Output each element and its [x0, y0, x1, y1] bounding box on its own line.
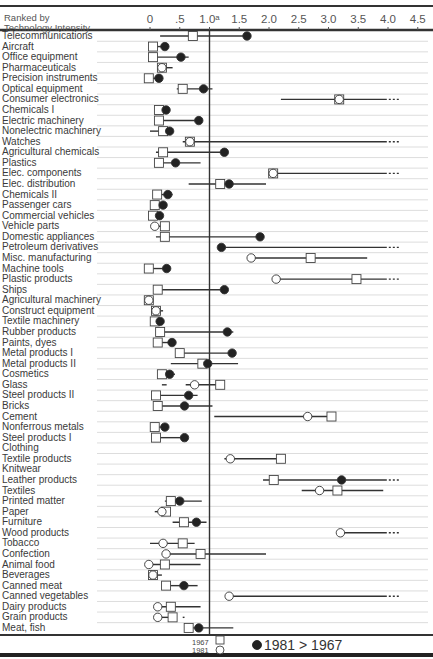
marker-1981-open-circle [190, 381, 198, 389]
marker-1981-open-circle [145, 560, 153, 568]
marker-1967-square [352, 275, 361, 284]
marker-1967-square [153, 190, 162, 199]
marker-1967-square [150, 423, 159, 432]
marker-1967-square [153, 285, 162, 294]
marker-1981-open-circle [247, 254, 255, 262]
marker-1967-square [327, 412, 336, 421]
marker-1967-square [151, 391, 160, 400]
marker-1967-square [154, 158, 163, 167]
marker-1967-square [144, 74, 153, 83]
legend-circle-label: 1981 [192, 647, 209, 655]
x-tick-label: 4.5 [410, 13, 426, 25]
marker-1981-open-circle [154, 603, 162, 611]
marker-1981-open-circle [186, 138, 194, 146]
marker-1967-square [269, 475, 278, 484]
marker-1981-filled-circle [192, 518, 200, 526]
marker-1981-filled-circle [177, 53, 185, 61]
row-label: Consumer electronics [2, 93, 99, 104]
row-label: Bricks [2, 400, 29, 411]
row-label: Glass [2, 379, 28, 390]
marker-1981-filled-circle [184, 391, 192, 399]
row-label: Precision instruments [2, 72, 98, 83]
row-label: Steel products II [2, 389, 74, 400]
row-label: Tobacco [2, 537, 39, 548]
marker-1967-square [306, 253, 315, 262]
legend-filled-label: 1981 > 1967 [264, 637, 342, 653]
row-label: Telecommunications [2, 30, 93, 41]
marker-1981-open-circle [158, 64, 166, 72]
marker-1981-open-circle [272, 275, 280, 283]
marker-1967-square [153, 338, 162, 347]
row-label: Animal food [2, 559, 55, 570]
marker-1967-square [148, 53, 157, 62]
marker-1967-square [159, 148, 168, 157]
marker-1967-square [216, 179, 225, 188]
row-label: Beverages [2, 569, 50, 580]
marker-1981-filled-circle [195, 116, 203, 124]
marker-1967-square [196, 549, 205, 558]
marker-1967-square [154, 116, 163, 125]
marker-1981-filled-circle [204, 359, 212, 367]
marker-1967-square [178, 84, 187, 93]
marker-1981-open-circle [162, 550, 170, 558]
row-label: Confection [2, 548, 50, 559]
row-label: Vehicle parts [2, 220, 59, 231]
row-label: Canned vegetables [2, 590, 88, 601]
row-label: Metal products I [2, 347, 73, 358]
row-label: Leather products [2, 474, 77, 485]
row-label: Chemicals I [2, 104, 54, 115]
row-label: Plastic products [2, 273, 73, 284]
x-tick-label: 3.0 [321, 13, 337, 25]
x-tick-label: 4.0 [380, 13, 396, 25]
technology-intensity-chart: Ranked by Technology Intensity 0.51.0ᵃ1.… [0, 0, 433, 659]
marker-1981-filled-circle [217, 243, 225, 251]
marker-1981-filled-circle [225, 180, 233, 188]
marker-1967-square [160, 232, 169, 241]
row-label: Paper [2, 506, 29, 517]
x-tick-label: 0 [147, 13, 153, 25]
marker-1981-open-circle [226, 455, 234, 463]
marker-1981-filled-circle [180, 581, 188, 589]
marker-1981-filled-circle [165, 370, 173, 378]
row-label: Petroleum derivatives [2, 241, 98, 252]
marker-1981-open-circle [336, 529, 344, 537]
marker-1981-filled-circle [180, 433, 188, 441]
row-label: Textiles [2, 485, 35, 496]
row-label: Textile machinery [2, 315, 79, 326]
legend-year-labels: 1967 1981 [192, 639, 209, 655]
marker-1981-filled-circle [243, 32, 251, 40]
row-label: Wood products [2, 527, 69, 538]
marker-1981-filled-circle [176, 497, 184, 505]
marker-1981-open-circle [145, 296, 153, 304]
row-label: Knitwear [2, 463, 41, 474]
marker-1981-open-circle [149, 571, 157, 579]
x-tick-label: .5 [175, 13, 185, 25]
marker-1981-filled-circle [162, 106, 170, 114]
marker-1967-square [216, 380, 225, 389]
marker-1981-filled-circle [195, 624, 203, 632]
row-label: Meat, fish [2, 622, 45, 633]
marker-1981-filled-circle [223, 328, 231, 336]
row-label: Misc. manufacturing [2, 252, 91, 263]
row-label: Grain products [2, 611, 68, 622]
marker-1967-square [160, 222, 169, 231]
row-label: Elec. components [2, 167, 82, 178]
marker-1981-filled-circle [180, 402, 188, 410]
marker-1967-square [148, 42, 157, 51]
row-label: Watches [2, 136, 41, 147]
marker-1981-open-circle [335, 95, 343, 103]
row-label: Ships [2, 284, 27, 295]
marker-1967-square [276, 454, 285, 463]
marker-1981-open-circle [154, 613, 162, 621]
marker-1981-filled-circle [161, 42, 169, 50]
marker-1981-filled-circle [165, 127, 173, 135]
x-tick-label: 1.0ᵃ [199, 13, 219, 25]
marker-1981-open-circle [225, 592, 233, 600]
row-label: Aircraft [2, 41, 34, 52]
marker-1981-filled-circle [220, 285, 228, 293]
row-label: Clothing [2, 442, 39, 453]
marker-1981-filled-circle [156, 317, 164, 325]
x-tick-label: 1.5 [231, 13, 247, 25]
row-label: Elec. distribution [2, 178, 75, 189]
row-label: Rubber products [2, 326, 76, 337]
